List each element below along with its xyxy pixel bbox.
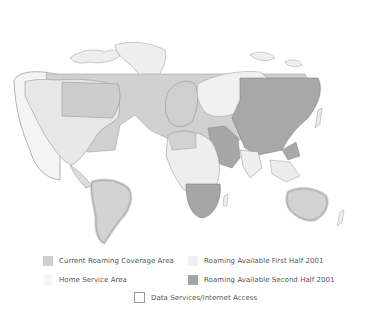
legend-label: Current Roaming Coverage Area — [59, 257, 174, 265]
legend-item-first-half-2001: Roaming Available First Half 2001 — [188, 256, 324, 266]
japan — [315, 108, 322, 128]
asia-second-half-2001 — [232, 78, 320, 155]
legend-item-second-half-2001: Roaming Available Second Half 2001 — [188, 275, 335, 285]
south-america — [91, 180, 130, 243]
world-map — [0, 0, 368, 245]
legend-swatch-second-half-2001 — [188, 275, 198, 285]
legend-swatch-current-roaming — [43, 256, 53, 266]
new-zealand — [337, 210, 344, 226]
south-asia — [240, 150, 262, 178]
madagascar — [223, 194, 228, 206]
legend-item-home-service: Home Service Area — [43, 275, 127, 285]
australia — [287, 189, 328, 221]
legend-swatch-home-service — [43, 275, 53, 285]
map-legend: Current Roaming Coverage Area Roaming Av… — [0, 248, 368, 318]
southeast-asia — [270, 160, 300, 182]
north-africa-roaming — [168, 131, 196, 150]
legend-swatch-first-half-2001 — [188, 256, 198, 266]
legend-item-data-services: Data Services/Internet Access — [134, 292, 257, 303]
legend-label: Roaming Available Second Half 2001 — [204, 276, 335, 284]
legend-label: Home Service Area — [59, 276, 127, 284]
legend-swatch-data-services — [134, 292, 145, 303]
southern-africa-second-half-2001 — [186, 184, 220, 218]
legend-label: Roaming Available First Half 2001 — [204, 257, 324, 265]
legend-item-current-roaming: Current Roaming Coverage Area — [43, 256, 174, 266]
legend-label: Data Services/Internet Access — [151, 294, 257, 302]
